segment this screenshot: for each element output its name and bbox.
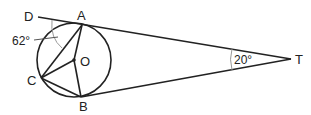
tangent-line-b-t (81, 59, 291, 97)
label-o: O (80, 54, 90, 69)
label-c: C (27, 73, 36, 88)
label-b: B (79, 99, 88, 114)
angle-arc-dac (52, 20, 62, 48)
radius-o-c (41, 60, 74, 78)
angle-label-62: 62° (12, 34, 30, 48)
label-d: D (24, 9, 33, 24)
center-dot-o (72, 58, 76, 62)
angle-arc-atb (231, 49, 233, 70)
label-a: A (77, 8, 86, 23)
angle-label-20: 20° (234, 53, 252, 67)
geometry-diagram: D A O C B T 62° 20° (0, 0, 311, 115)
label-t: T (295, 52, 303, 67)
